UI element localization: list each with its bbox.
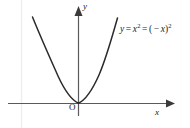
equation-term2-exponent: 2 [168,22,171,29]
equation-equals-second: = [140,24,148,34]
parabola-curve [33,17,118,103]
equation-equals-first: = [124,24,132,34]
x-axis-arrowhead [166,100,175,108]
figure-canvas [0,0,190,128]
origin-label: O [69,103,76,112]
y-axis-arrowhead [75,6,83,16]
x-axis-label: x [155,108,159,117]
parabola-figure: y x O y=x2=(−x)2 [0,0,190,128]
y-axis-label: y [83,2,87,11]
equation-label: y=x2=(−x)2 [120,25,172,35]
equation-minus-sign: − [152,24,160,34]
